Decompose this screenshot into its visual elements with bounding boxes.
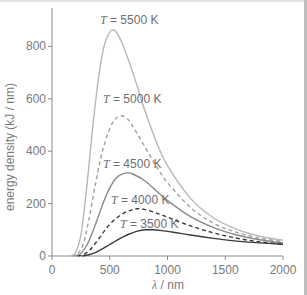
y-ticks: 0200400600800: [26, 39, 52, 263]
series-label-5500k: T = 5500 K: [100, 13, 158, 27]
series-labels: T = 5500 KT = 5000 KT = 4500 KT = 4000 K…: [100, 13, 178, 231]
series-label-4000k: T = 4000 K: [111, 193, 169, 207]
curve-3500k: [82, 230, 283, 256]
x-tick-label: 500: [100, 263, 120, 277]
y-tick-label: 800: [26, 39, 46, 53]
y-tick-label: 200: [26, 197, 46, 211]
curve-4500k: [75, 173, 283, 256]
y-axis-title: energy density (kJ / nm): [3, 83, 17, 211]
x-axis-title: λ / nm: [151, 278, 184, 292]
y-tick-label: 400: [26, 144, 46, 158]
y-tick-label: 0: [39, 249, 46, 263]
curve-4000k: [77, 209, 283, 256]
x-ticks: 0500100015002000: [49, 256, 297, 277]
x-tick-label: 0: [49, 263, 56, 277]
x-tick-label: 1000: [154, 263, 181, 277]
curve-5000k: [72, 116, 283, 256]
series-label-3500k: T = 3500 K: [120, 217, 178, 231]
series-label-5000k: T = 5000 K: [103, 92, 161, 106]
axes: 0200400600800 0500100015002000: [26, 8, 297, 277]
x-tick-label: 1500: [212, 263, 239, 277]
x-axis-unit: / nm: [157, 278, 184, 292]
blackbody-radiation-chart: 0200400600800 0500100015002000 T = 5500 …: [0, 0, 307, 295]
x-tick-label: 2000: [270, 263, 297, 277]
y-tick-label: 600: [26, 92, 46, 106]
series-label-4500k: T = 4500 K: [103, 157, 161, 171]
